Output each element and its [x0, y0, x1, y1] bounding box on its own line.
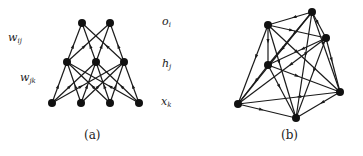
weight-label-wjk-base: w — [20, 71, 29, 84]
weight-label-wjk-sub: jk — [29, 77, 35, 85]
recurrent-neuron — [308, 8, 316, 16]
recurrent-neuron — [322, 34, 330, 42]
input-neuron — [106, 99, 114, 107]
arrowhead-icon — [266, 39, 269, 44]
recurrent-neuron — [264, 61, 272, 69]
layer-label-input-sub: k — [167, 101, 171, 109]
hidden-neuron — [63, 58, 71, 66]
hidden-neuron — [120, 58, 128, 66]
hidden-neuron — [92, 58, 100, 66]
layer-label-output: oi — [162, 16, 171, 29]
arrowhead-icon — [259, 108, 264, 111]
arrowhead-icon — [289, 28, 294, 31]
arrowhead-icon — [255, 54, 258, 59]
recurrent-neuron — [234, 100, 242, 108]
input-neuron — [135, 99, 143, 107]
connection-edge — [326, 38, 340, 92]
connection-edge — [268, 12, 312, 25]
output-neuron — [78, 19, 86, 27]
recurrent-neuron — [264, 21, 272, 29]
arrowhead-icon — [292, 15, 297, 18]
input-neuron — [48, 99, 56, 107]
layer-label-hidden: hj — [162, 58, 171, 71]
connection-edge — [268, 25, 340, 92]
caption-b: (b) — [281, 129, 298, 141]
connection-edge — [124, 62, 139, 103]
connection-edge — [268, 65, 340, 92]
caption-a: (a) — [84, 129, 101, 141]
arrowhead-icon — [99, 44, 102, 49]
layer-label-output-sub: i — [169, 21, 171, 29]
weight-label-wij-sub: ij — [17, 37, 21, 45]
arrowhead-icon — [300, 47, 305, 50]
recurrent-neuron — [292, 114, 300, 122]
connection-edge — [238, 104, 296, 118]
arrowhead-icon — [277, 84, 281, 89]
layer-label-hidden-sub: j — [169, 63, 171, 71]
panel-b-connections — [238, 12, 340, 118]
weight-label-wij: wij — [8, 32, 22, 45]
arrowhead-icon — [85, 84, 88, 89]
arrowhead-icon — [294, 74, 299, 77]
connection-edge — [52, 62, 67, 103]
arrowhead-icon — [78, 85, 83, 89]
connection-edge — [67, 23, 82, 62]
connection-edge — [312, 12, 326, 38]
arrowhead-icon — [132, 84, 135, 89]
layer-label-output-base: o — [162, 15, 169, 28]
weight-label-wjk: wjk — [20, 72, 36, 85]
input-neuron — [77, 99, 85, 107]
connection-edge — [312, 12, 340, 92]
arrowhead-icon — [90, 44, 93, 49]
network-diagram — [0, 0, 363, 156]
arrowhead-icon — [320, 100, 325, 104]
arrowhead-icon — [330, 57, 333, 62]
arrowhead-icon — [56, 84, 59, 89]
recurrent-neuron — [336, 88, 344, 96]
arrowhead-icon — [118, 44, 121, 49]
arrowhead-icon — [108, 85, 113, 89]
output-neuron — [106, 19, 114, 27]
arrowhead-icon — [71, 44, 74, 49]
layer-label-input: xk — [161, 96, 171, 109]
weight-label-wij-base: w — [8, 31, 17, 44]
